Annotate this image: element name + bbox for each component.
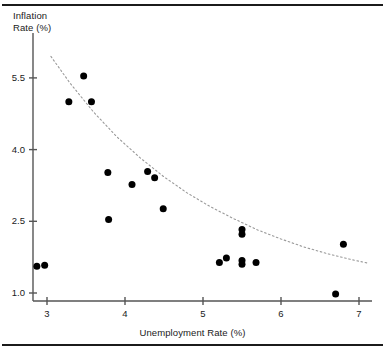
y-axis-tick-label: 5.5: [0, 72, 25, 83]
data-point: [151, 174, 158, 181]
y-axis-tick-label: 1.0: [0, 287, 25, 298]
data-point: [340, 241, 347, 248]
plot-canvas: [0, 0, 385, 351]
data-point: [33, 263, 40, 270]
data-point: [80, 72, 87, 79]
data-point: [105, 216, 112, 223]
data-point: [129, 181, 136, 188]
data-point: [239, 261, 246, 268]
x-axis-tick-label: 5: [193, 308, 213, 319]
x-axis-tick-label: 7: [349, 308, 369, 319]
data-point: [253, 259, 260, 266]
data-point: [65, 98, 72, 105]
data-point: [160, 205, 167, 212]
data-point: [41, 262, 48, 269]
data-point: [144, 168, 151, 175]
y-axis-tick-label: 2.5: [0, 215, 25, 226]
x-axis-tick-label: 3: [37, 308, 57, 319]
x-axis-tick-label: 4: [115, 308, 135, 319]
data-point: [332, 290, 339, 297]
data-point: [239, 231, 246, 238]
y-axis-tick-label: 4.0: [0, 144, 25, 155]
x-axis-tick-label: 6: [271, 308, 291, 319]
data-point: [88, 98, 95, 105]
trend-line: [51, 56, 367, 263]
scatter-plot-figure: InflationRate (%) Unemployment Rate (%) …: [0, 0, 385, 351]
data-point: [223, 255, 230, 262]
data-point: [104, 169, 111, 176]
data-point: [216, 259, 223, 266]
